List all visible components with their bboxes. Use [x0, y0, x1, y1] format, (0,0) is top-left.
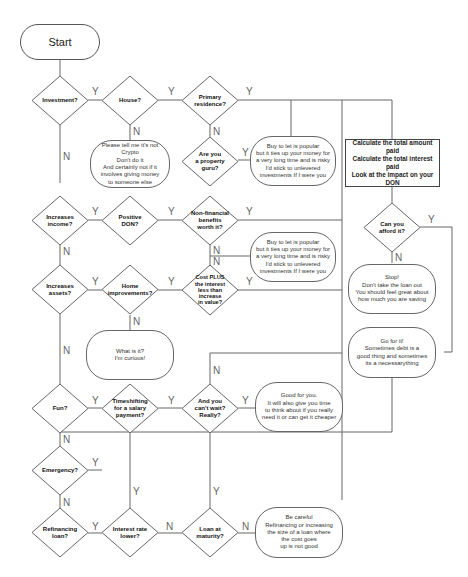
decision-label: Loan at maturity?: [182, 508, 238, 557]
decision-label: Are you a property guru?: [182, 137, 238, 186]
decision-can-afford: Can you afford it?: [364, 203, 420, 252]
edge-label-no: N: [63, 247, 70, 257]
decision-house: House?: [102, 76, 158, 125]
edge-label-yes: Y: [133, 487, 140, 497]
decision-investment: Investment?: [32, 76, 88, 125]
edge-label-no: N: [63, 152, 70, 162]
note-go-for-it: Go for it! Sometimes debt is a good thin…: [348, 327, 436, 378]
edge-label-yes: Y: [92, 396, 99, 406]
decision-label: House?: [102, 76, 158, 125]
edge-label-yes: Y: [92, 277, 99, 287]
edge-label-yes: Y: [92, 458, 99, 468]
process-calculate-totals: Calculate the total amount paid Calculat…: [345, 139, 440, 187]
edge-label-no: N: [133, 127, 140, 137]
note-curious: What is it? I'm curious!: [86, 330, 174, 380]
edge-label-no: N: [213, 127, 220, 137]
decision-refinancing-loan: Refinancing loan?: [32, 508, 88, 557]
edge-label-no: N: [63, 435, 70, 445]
edge-label-no: N: [213, 246, 220, 256]
edge-label-yes: Y: [242, 396, 249, 406]
start-terminal: Start: [20, 24, 100, 60]
decision-label: Can you afford it?: [364, 203, 420, 252]
decision-label: Fun?: [32, 384, 88, 433]
note-buy-to-let-2: Buy to let is popular but it ties up you…: [250, 232, 336, 282]
decision-label: And you can't wait? Really?: [182, 384, 238, 433]
edge-label-yes: Y: [242, 148, 249, 158]
decision-property-guru: Are you a property guru?: [182, 137, 238, 186]
edge-label-no: N: [133, 317, 140, 327]
note-crypto: Please tell me it's not Crypto Don't do …: [90, 140, 170, 188]
decision-label: Increases assets?: [32, 265, 88, 314]
decision-cost-plus-interest: Cost PLUS the interest less than increas…: [182, 265, 238, 315]
edge-label-yes: Y: [168, 87, 175, 97]
decision-label: Investment?: [32, 76, 88, 125]
decision-increases-income: Increases income?: [32, 196, 88, 245]
decision-label: Interest rate lower?: [102, 508, 158, 557]
edge-label-yes: Y: [246, 207, 253, 217]
edge-label-no: N: [395, 253, 402, 263]
decision-label: Positive DON?: [102, 196, 158, 245]
decision-non-financial-benefits: Non-financial benefits worth it?: [182, 196, 238, 245]
decision-emergency: Emergency?: [32, 446, 88, 495]
edge-label-yes: Y: [428, 215, 435, 225]
decision-label: Emergency?: [32, 446, 88, 495]
note-stop: Stop! Don't take the loan out You should…: [348, 264, 436, 314]
decision-cant-wait: And you can't wait? Really?: [182, 384, 238, 433]
edge-label-yes: Y: [168, 207, 175, 217]
decision-home-improvements: Home improvements?: [102, 265, 158, 314]
edge-label-yes: Y: [213, 487, 220, 497]
edge-label-no: N: [166, 522, 173, 532]
edge-label-yes: Y: [92, 522, 99, 532]
edge-label-no: N: [63, 498, 70, 508]
decision-loan-at-maturity: Loan at maturity?: [182, 508, 238, 557]
edge-label-no: N: [242, 522, 249, 532]
note-good-for-you: Good for you. It will also give you time…: [255, 382, 343, 432]
note-be-careful: Be careful Refinancing or increasing the…: [255, 507, 343, 558]
edge-label-yes: Y: [168, 277, 175, 287]
edge-label-yes: Y: [246, 277, 253, 287]
decision-interest-rate-lower: Interest rate lower?: [102, 508, 158, 557]
edge-label-no: N: [213, 366, 220, 376]
decision-label: Increases income?: [32, 196, 88, 245]
edge-label-yes: Y: [246, 87, 253, 97]
decision-timeshifting: Timeshifting for a salary payment?: [102, 384, 158, 433]
edge-label-yes: Y: [168, 396, 175, 406]
edge-label-yes: Y: [92, 87, 99, 97]
decision-increases-assets: Increases assets?: [32, 265, 88, 314]
decision-label: Cost PLUS the interest less than increas…: [182, 265, 238, 315]
decision-positive-don: Positive DON?: [102, 196, 158, 245]
decision-primary-residence: Primary residence?: [182, 76, 238, 125]
edge-label-no: N: [213, 257, 220, 267]
note-buy-to-let-1: Buy to let is popular but it ties up you…: [250, 136, 336, 186]
decision-label: Non-financial benefits worth it?: [182, 196, 238, 245]
edge-label-no: N: [63, 346, 70, 356]
decision-label: Timeshifting for a salary payment?: [102, 384, 158, 433]
decision-label: Refinancing loan?: [32, 508, 88, 557]
decision-label: Primary residence?: [182, 76, 238, 125]
decision-label: Home improvements?: [102, 265, 158, 314]
edge-label-yes: Y: [92, 207, 99, 217]
decision-fun: Fun?: [32, 384, 88, 433]
